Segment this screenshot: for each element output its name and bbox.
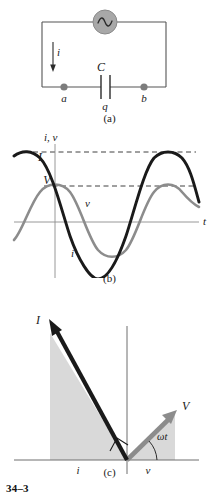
phasor-diagram: I V i v ωt: [0, 288, 219, 474]
label-charge-q: q: [102, 100, 108, 112]
label-terminal-a: a: [61, 92, 67, 104]
label-phasor-V: V: [182, 399, 191, 413]
capacitor-symbol: [101, 75, 110, 99]
ac-source-symbol: [93, 10, 117, 34]
label-curve-i: i: [71, 247, 74, 259]
label-curve-v: v: [85, 197, 90, 209]
circuit-diagram: i C q a b: [0, 0, 219, 130]
current-arrow: [50, 42, 56, 72]
terminal-dot-b: [140, 83, 147, 90]
current-arrowhead: [50, 65, 56, 73]
label-axis-iv: i, v: [44, 131, 58, 143]
label-current-i: i: [57, 46, 60, 58]
panel-a-circuit: i C q a b: [0, 0, 219, 130]
caption-panel-a: (a): [0, 112, 219, 124]
caption-panel-b: (b): [0, 272, 219, 284]
amplitude-guides: [33, 152, 196, 186]
terminal-dot-a: [60, 83, 67, 90]
panel-c-phasor: I V i v ωt: [0, 288, 219, 474]
label-angle-omega-t: ωt: [157, 431, 168, 442]
current-curve: [14, 152, 199, 278]
caption-panel-c: (c): [0, 466, 219, 478]
figure-number: 34–3: [6, 482, 29, 494]
label-capacitor-C: C: [97, 60, 106, 74]
waveform-chart: i, v I V t v i: [0, 128, 219, 278]
label-axis-t: t: [203, 215, 207, 227]
panel-b-waveforms: i, v I V t v i: [0, 128, 219, 290]
label-terminal-b: b: [141, 92, 147, 104]
figure-34-3: i C q a b (a) i, v I V t: [0, 0, 219, 501]
voltage-curve: [14, 185, 199, 257]
label-phasor-I: I: [35, 313, 41, 327]
